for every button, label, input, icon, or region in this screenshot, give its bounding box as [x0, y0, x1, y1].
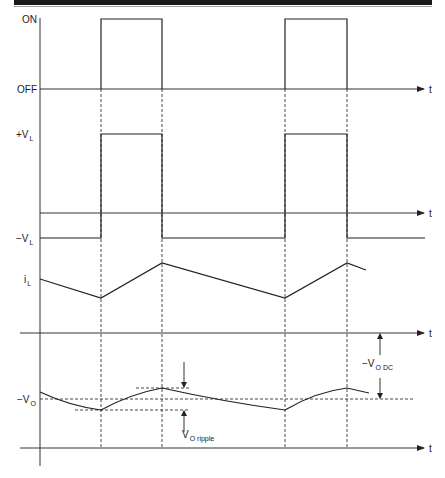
time-label-4: t — [429, 443, 432, 454]
label-vo-dc: −VO DC — [362, 358, 393, 371]
timing-diagram: ON OFF t +VL −VL t iL t −VO VO ripple −V… — [0, 0, 445, 478]
switch-pulse-1 — [101, 19, 162, 89]
time-label-1: t — [429, 84, 432, 95]
header-bar — [14, 0, 432, 5]
label-il: iL — [24, 274, 31, 287]
il-waveform — [40, 263, 366, 298]
label-minus-vl: −VL — [16, 233, 34, 246]
time-label-3: t — [429, 328, 432, 339]
label-minus-vo: −VO — [17, 394, 37, 407]
label-off: OFF — [17, 84, 37, 95]
label-vo-ripple: VO ripple — [182, 429, 214, 443]
label-on: ON — [22, 14, 37, 25]
time-label-2: t — [429, 208, 432, 219]
switch-pulse-2 — [285, 19, 347, 89]
vl-waveform — [40, 134, 425, 238]
label-plus-vl: +VL — [16, 129, 34, 142]
vo-waveform — [40, 388, 369, 410]
